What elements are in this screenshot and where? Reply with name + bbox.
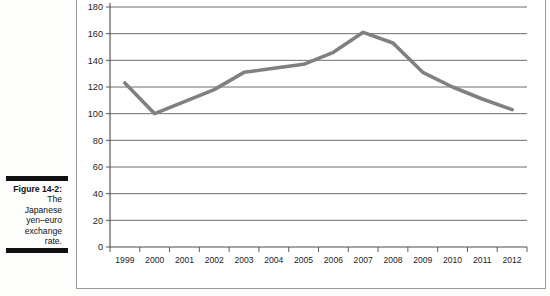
x-axis-tick-label: 2009 (413, 255, 432, 265)
x-axis-tick-label: 2004 (264, 255, 283, 265)
caption-line-2: Japanese (0, 205, 62, 215)
x-axis-tick-label: 1999 (115, 255, 134, 265)
y-axis-tick-label: 60 (93, 162, 103, 172)
x-axis-tick-label: 2008 (383, 255, 402, 265)
y-axis-tick-label: 140 (88, 56, 103, 66)
y-axis-tick-label: 120 (88, 82, 103, 92)
y-axis-tick-label: 40 (93, 189, 103, 199)
y-axis-tick-label: 100 (88, 109, 103, 119)
grid-lines (110, 7, 527, 220)
caption-line-5: rate. (0, 236, 62, 246)
x-axis-tick-label: 2003 (234, 255, 253, 265)
chart-svg: 020406080100120140160180 199920002001200… (77, 0, 547, 289)
x-axis-tick-label: 2010 (443, 255, 462, 265)
chart-frame: 020406080100120140160180 199920002001200… (76, 0, 546, 289)
x-axis-tick-label: 2000 (145, 255, 164, 265)
figure-caption-text: Figure 14-2: The Japanese yen–euro excha… (0, 184, 68, 246)
x-axis-tick-label: 2011 (473, 255, 492, 265)
caption-rule-top (6, 176, 68, 181)
caption-line-3: yen–euro (0, 215, 62, 225)
x-axis-tick-label: 2001 (175, 255, 194, 265)
line-chart: 020406080100120140160180 199920002001200… (77, 0, 547, 289)
x-axis-tick-label: 2012 (503, 255, 522, 265)
x-axis-tick-label: 2006 (324, 255, 343, 265)
figure-container: Figure 14-2: The Japanese yen–euro excha… (0, 0, 550, 296)
x-axis-ticks: 1999200020012002200320042005200620072008… (110, 247, 527, 265)
y-axis-tick-label: 20 (93, 216, 103, 226)
x-axis-tick-label: 2007 (354, 255, 373, 265)
axis-lines (110, 3, 527, 247)
caption-line-4: exchange (0, 226, 62, 236)
x-axis-tick-label: 2002 (205, 255, 224, 265)
caption-line-1: The (0, 194, 62, 204)
data-series-line (125, 32, 512, 113)
x-axis-tick-label: 2005 (294, 255, 313, 265)
figure-caption-block: Figure 14-2: The Japanese yen–euro excha… (0, 176, 68, 253)
y-axis-tick-label: 80 (93, 136, 103, 146)
y-axis-ticks: 020406080100120140160180 (88, 2, 110, 252)
y-axis-tick-label: 160 (88, 29, 103, 39)
y-axis-tick-label: 0 (98, 242, 103, 252)
caption-rule-bottom (6, 248, 68, 253)
y-axis-tick-label: 180 (88, 2, 103, 12)
caption-figure-number: Figure 14-2: (0, 184, 62, 194)
